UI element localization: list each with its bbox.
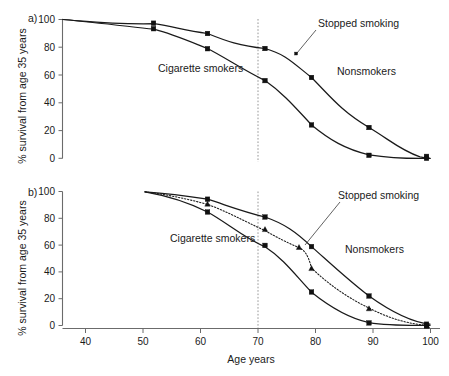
panel-a-ytick-20: 20: [44, 125, 56, 136]
panel-b-curve-cigarette-smokers: [145, 192, 430, 326]
panel-b-curve-nonsmokers: [145, 192, 430, 324]
panel-b-y-axis-title: % survival from age 35 years: [16, 200, 28, 335]
panel-a: a) % survival from age 35 years 100 80 6…: [16, 12, 430, 164]
panel-a-y-axis-title: % survival from age 35 years: [16, 28, 28, 163]
panel-a-markers-nonsmokers: [151, 21, 429, 159]
panel-b-y-ticks: [59, 192, 63, 326]
panel-a-annot-stopped-smoking: Stopped smoking: [318, 17, 399, 29]
panel-a-ytick-0: 0: [49, 153, 55, 164]
panel-b-ytick-20: 20: [44, 293, 56, 304]
panel-b-xtick-70: 70: [252, 336, 264, 347]
panel-a-y-ticks: [59, 20, 63, 159]
panel-a-label: a): [28, 12, 37, 24]
panel-a-curve-nonsmokers: [63, 20, 430, 159]
panel-b-y-tick-labels: 100 80 60 40 20 0: [38, 186, 55, 331]
panel-a-leader-stopped-smoking: [297, 30, 316, 53]
panel-b-ytick-40: 40: [44, 266, 56, 277]
panel-b-xtick-60: 60: [195, 336, 207, 347]
panel-b-ytick-100: 100: [38, 186, 55, 197]
panel-a-ytick-100: 100: [38, 14, 55, 25]
panel-a-ytick-80: 80: [44, 42, 56, 53]
panel-b-ytick-80: 80: [44, 213, 56, 224]
panel-b-x-tick-labels: 40 50 60 70 80 90 100: [80, 336, 439, 347]
panel-b-xtick-90: 90: [367, 336, 379, 347]
panel-b: b) % survival from age 35 years 100 80 6…: [16, 186, 440, 365]
panel-b-xtick-50: 50: [137, 336, 149, 347]
panel-a-ytick-40: 40: [44, 97, 56, 108]
panel-b-markers-stopped-smoking: [205, 201, 430, 328]
panel-a-annot-cigarette-smokers: Cigarette smokers: [158, 62, 243, 74]
panel-b-xtick-100: 100: [422, 336, 439, 347]
panel-a-y-tick-labels: 100 80 60 40 20 0: [38, 14, 55, 164]
panel-b-markers-cigarette-smokers: [205, 210, 429, 329]
panel-a-annot-nonsmokers: Nonsmokers: [337, 65, 396, 77]
panel-a-markers-cigarette-smokers: [151, 26, 429, 160]
panel-b-annot-cigarette-smokers: Cigarette smokers: [170, 232, 255, 244]
survival-curves-figure: a) % survival from age 35 years 100 80 6…: [0, 0, 449, 376]
panel-a-leader-endpoint: [295, 52, 298, 55]
panel-b-curve-stopped-smoking: [145, 192, 430, 325]
panel-b-leader-stopped-smoking: [305, 202, 340, 245]
panel-b-annot-stopped-smoking: Stopped smoking: [338, 189, 419, 201]
panel-b-markers-nonsmokers: [205, 197, 429, 327]
panel-b-xtick-80: 80: [310, 336, 322, 347]
panel-b-label: b): [28, 186, 37, 198]
panel-b-ytick-60: 60: [44, 240, 56, 251]
panel-b-x-axis-title: Age years: [227, 353, 274, 365]
panel-a-ytick-60: 60: [44, 70, 56, 81]
panel-b-ytick-0: 0: [49, 320, 55, 331]
panel-a-curve-cigarette-smokers: [63, 20, 430, 159]
panel-b-annot-nonsmokers: Nonsmokers: [345, 243, 404, 255]
chart-svg: a) % survival from age 35 years 100 80 6…: [0, 0, 449, 376]
panel-b-xtick-40: 40: [80, 336, 92, 347]
panel-b-x-ticks: [86, 329, 431, 334]
